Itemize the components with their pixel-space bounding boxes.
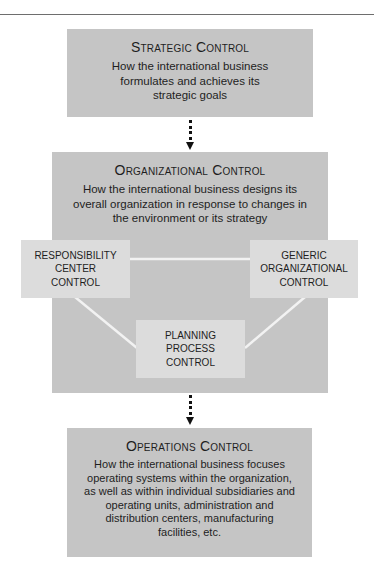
planning-process-control-box: PLANNING PROCESS CONTROL xyxy=(136,320,245,378)
responsibility-center-control-box: RESPONSIBILITY CENTER CONTROL xyxy=(21,240,130,298)
generic-organizational-control-box: GENERIC ORGANIZATIONAL CONTROL xyxy=(250,240,358,298)
arrowhead-icon xyxy=(186,417,194,425)
operations-control-box: Operations Control How the international… xyxy=(67,428,312,557)
operations-control-title: Operations Control xyxy=(67,438,312,454)
responsibility-center-control-label: RESPONSIBILITY CENTER CONTROL xyxy=(34,249,116,290)
planning-process-control-label: PLANNING PROCESS CONTROL xyxy=(165,329,216,370)
generic-organizational-control-label: GENERIC ORGANIZATIONAL CONTROL xyxy=(260,249,348,290)
operations-control-description: How the international business focuses o… xyxy=(67,458,312,539)
arrow-organizational-to-operations xyxy=(185,395,195,425)
